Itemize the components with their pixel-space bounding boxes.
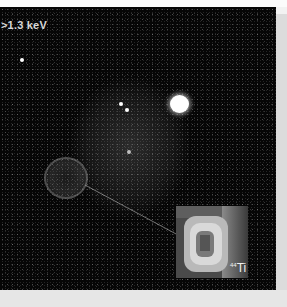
top-margin (0, 0, 287, 7)
isotope-number: 44 (230, 262, 237, 268)
ti44-label: 44Ti (230, 261, 246, 275)
right-border (276, 14, 287, 300)
inset-core (200, 235, 210, 251)
element-symbol: Ti (237, 261, 247, 275)
xray-image: >1.3 keV (0, 7, 276, 290)
bottom-margin (0, 290, 287, 307)
